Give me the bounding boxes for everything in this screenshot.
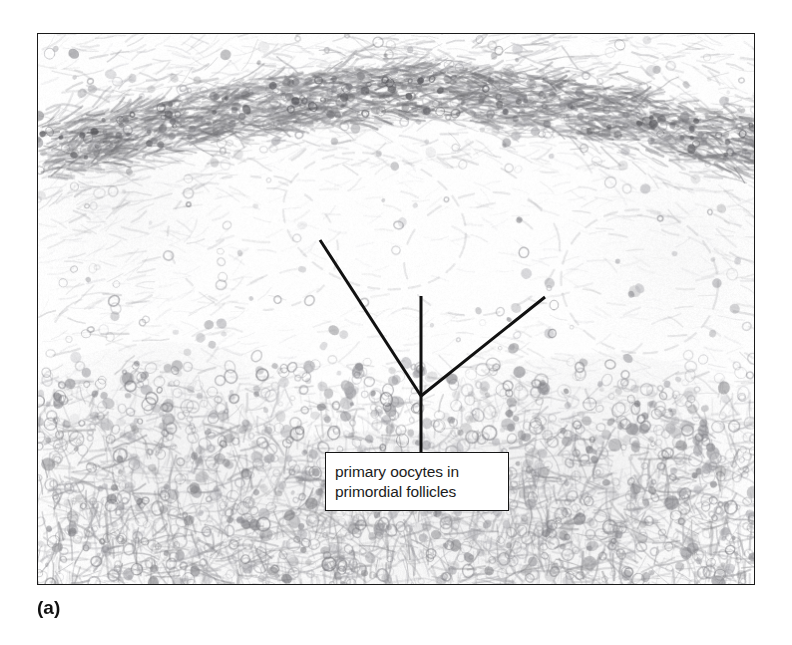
panel-caption: (a) [37,597,60,619]
figure-root: primary oocytes in primordial follicles … [0,0,792,645]
callout-label-line-2: primordial follicles [335,482,508,502]
callout-label-line-1: primary oocytes in [335,462,508,482]
callout-label-box: primary oocytes in primordial follicles [325,452,509,511]
